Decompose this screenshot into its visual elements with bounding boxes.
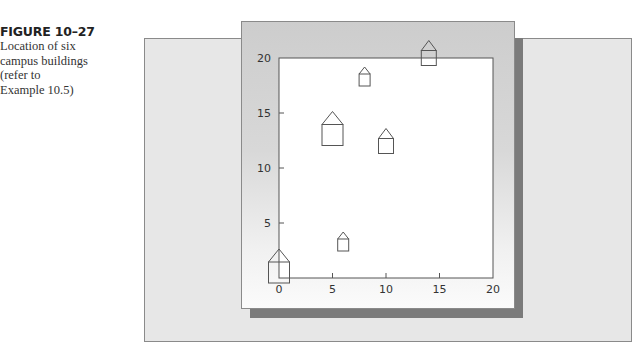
y-tick-label: 20 <box>257 52 271 65</box>
plot-area <box>279 58 493 278</box>
y-tick-label: 10 <box>257 162 271 175</box>
house-icon <box>421 41 436 66</box>
scatter-chart: 051015205101520 <box>0 0 643 358</box>
x-tick-label: 20 <box>486 283 500 296</box>
y-tick-label: 15 <box>257 107 271 120</box>
x-tick-label: 15 <box>433 283 447 296</box>
x-tick-label: 0 <box>276 283 283 296</box>
x-tick-label: 5 <box>329 283 336 296</box>
x-tick-label: 10 <box>379 283 393 296</box>
y-tick-label: 5 <box>264 217 271 230</box>
